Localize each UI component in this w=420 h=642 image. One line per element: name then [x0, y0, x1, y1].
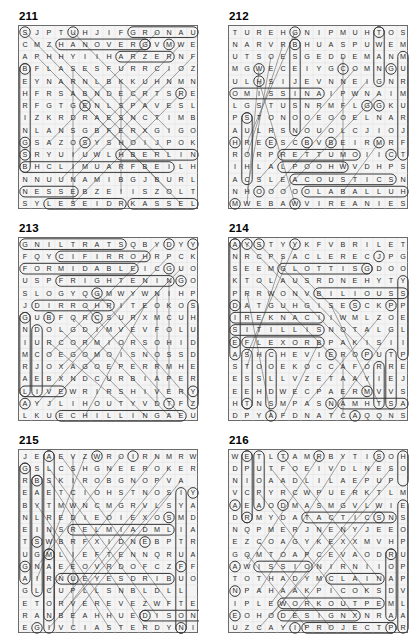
letter-cell: A — [43, 560, 55, 572]
letter-cell: E — [289, 149, 301, 161]
letter-cell: A — [385, 609, 397, 621]
letter-cell: U — [187, 324, 199, 336]
letter-cell: R — [55, 112, 67, 124]
letter-cell: Q — [151, 548, 163, 560]
letter-cell: S — [67, 124, 79, 136]
letter-cell: S — [67, 462, 79, 474]
letter-cell: E — [127, 324, 139, 336]
letter-cell: Y — [151, 238, 163, 250]
letter-cell: L — [277, 161, 289, 173]
letter-cell: R — [19, 100, 31, 112]
letter-cell: Z — [55, 136, 67, 148]
letter-cell: T — [241, 275, 253, 287]
letter-cell: E — [175, 462, 187, 474]
letter-cell: K — [361, 585, 373, 597]
letter-cell: H — [253, 348, 265, 360]
letter-cell: I — [79, 51, 91, 63]
letter-cell: A — [67, 361, 79, 373]
letter-cell: Y — [241, 238, 253, 250]
letter-cell: E — [349, 275, 361, 287]
letter-cell: T — [253, 450, 265, 462]
letter-cell: N — [361, 462, 373, 474]
letter-cell: Y — [313, 63, 325, 75]
letter-cell: B — [103, 75, 115, 87]
letter-cell: L — [55, 548, 67, 560]
letter-cell: T — [253, 299, 265, 311]
letter-cell: R — [289, 524, 301, 536]
letter-cell: M — [337, 149, 349, 161]
letter-cell: O — [265, 51, 277, 63]
letter-cell: R — [337, 250, 349, 262]
letter-cell: A — [43, 136, 55, 148]
letter-cell: L — [175, 185, 187, 197]
puzzle-board[interactable]: WETLTAMRBYTISOHDPUTFOEIVDLNESONIOAADLILA… — [228, 449, 408, 633]
letter-cell: T — [373, 26, 385, 38]
letter-cell: A — [229, 348, 241, 360]
letter-cell: G — [373, 75, 385, 87]
letter-cell: B — [79, 185, 91, 197]
letter-cell: A — [337, 475, 349, 487]
letter-cell: E — [385, 38, 397, 50]
letter-cell: D — [385, 585, 397, 597]
letter-cell: H — [187, 312, 199, 324]
letter-cell: E — [313, 112, 325, 124]
letter-cell: C — [151, 63, 163, 75]
puzzle-board[interactable]: TUREHGNIPMUHTOSNARVRBHUASPUWEMUTSOESGEDD… — [228, 25, 408, 209]
letter-cell: S — [373, 511, 385, 523]
letter-cell: L — [253, 161, 265, 173]
letter-cell: E — [79, 63, 91, 75]
letter-cell: M — [313, 573, 325, 585]
letter-cell: M — [163, 38, 175, 50]
puzzle-board[interactable]: AYSTYYKFVBRILETNRCPSACLERECJPGSEEMGLOTTI… — [228, 237, 408, 421]
letter-cell: O — [253, 185, 265, 197]
letter-cell: Z — [241, 536, 253, 548]
letter-cell: R — [349, 487, 361, 499]
letter-cell: U — [31, 312, 43, 324]
letter-cell: N — [349, 560, 361, 572]
letter-cell: A — [289, 511, 301, 523]
puzzle-board[interactable]: GNILTRATSQBYDYYFQYCIFIRROHRPCKFORMIDABLE… — [18, 237, 198, 421]
letter-cell: E — [229, 609, 241, 621]
letter-cell: I — [103, 336, 115, 348]
puzzle-number: 212 — [229, 10, 410, 23]
puzzle-board[interactable]: SJPTUHJIFGRONAUCMZHANOVERGVMWEAPHHYIIHAR… — [18, 25, 198, 209]
letter-cell: A — [337, 336, 349, 348]
letter-cell: V — [349, 499, 361, 511]
letter-cell: G — [289, 26, 301, 38]
letter-cell: O — [265, 536, 277, 548]
letter-cell: S — [163, 198, 175, 210]
letter-cell: U — [43, 410, 55, 422]
letter-cell: G — [67, 100, 79, 112]
letter-cell: S — [31, 275, 43, 287]
letter-cell: T — [265, 100, 277, 112]
letter-cell: K — [55, 475, 67, 487]
letter-cell: C — [313, 548, 325, 560]
letter-cell: W — [151, 597, 163, 609]
puzzle-board[interactable]: JEAEVZWROIRNMRWGSLCSHGNEEROKERRBSKIROBGN… — [18, 449, 198, 633]
letter-cell: I — [313, 299, 325, 311]
letter-cell: R — [139, 361, 151, 373]
letter-cell: E — [301, 75, 313, 87]
letter-cell: I — [385, 336, 397, 348]
letter-cell: A — [253, 499, 265, 511]
letter-cell: E — [67, 560, 79, 572]
letter-cell: O — [91, 361, 103, 373]
letter-cell: T — [373, 487, 385, 499]
letter-cell: R — [31, 149, 43, 161]
letter-cell: L — [55, 161, 67, 173]
letter-cell: K — [313, 536, 325, 548]
letter-cell: E — [43, 487, 55, 499]
letter-cell: L — [385, 487, 397, 499]
letter-cell: E — [55, 410, 67, 422]
letter-cell: G — [127, 173, 139, 185]
letter-cell: A — [67, 87, 79, 99]
letter-cell: I — [229, 161, 241, 173]
letter-cell: I — [301, 324, 313, 336]
letter-cell: H — [397, 185, 409, 197]
letter-cell: S — [397, 410, 409, 422]
letter-cell: T — [187, 185, 199, 197]
letter-cell: M — [361, 385, 373, 397]
letter-cell: S — [265, 75, 277, 87]
letter-cell: F — [163, 597, 175, 609]
letter-cell: F — [139, 560, 151, 572]
